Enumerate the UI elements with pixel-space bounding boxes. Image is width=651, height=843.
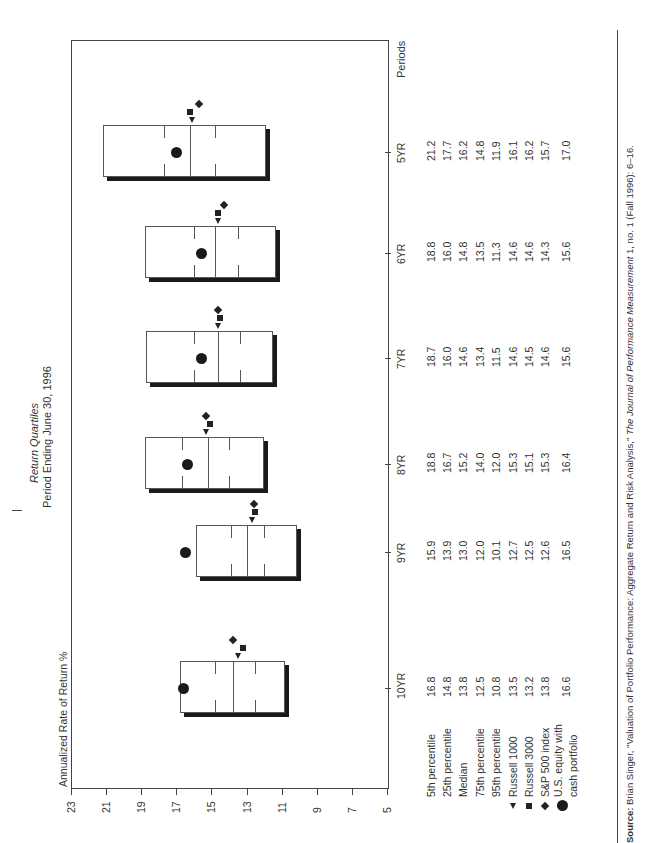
table-row-label: cash portfolio (567, 735, 579, 797)
table-cell: 15.7 (539, 141, 551, 161)
y-tick-label: 7 (346, 807, 358, 813)
source-rule (617, 30, 618, 843)
box-shadow (149, 489, 268, 493)
russell-1000-marker (203, 429, 209, 435)
x-tick-label: 6YR (395, 244, 407, 264)
source-prefix: Source: (624, 808, 635, 843)
russell-1000-marker (189, 117, 195, 123)
y-tick (141, 789, 142, 795)
table-cell: 14.5 (523, 347, 535, 367)
table-row-label: Russell 3000 (523, 736, 535, 797)
russell-3000-marker (187, 109, 193, 115)
y-tick-label: 5 (381, 807, 393, 813)
quartile-tick (194, 265, 195, 278)
table-cell: 13.8 (457, 677, 469, 697)
table-cell: 13.5 (507, 677, 519, 697)
quartile-tick (182, 437, 183, 450)
y-tick-label: 9 (311, 807, 323, 813)
table-cell: 14.3 (539, 242, 551, 262)
table-row-label: Median (457, 763, 469, 797)
legend-circle-icon (557, 800, 568, 811)
table-cell: 16.0 (441, 347, 453, 367)
box-shadow (184, 713, 289, 717)
table-cell: 12.0 (490, 453, 502, 473)
quartile-tick (164, 164, 165, 177)
y-tick-label: 19 (135, 801, 147, 813)
median-line (208, 437, 209, 489)
table-row-label: 75th percentile (474, 728, 486, 797)
table-cell: 11.3 (490, 242, 502, 262)
quartile-tick (194, 370, 195, 383)
quartile-box (146, 331, 272, 383)
table-cell: 12.7 (507, 541, 519, 561)
box-shadow (285, 665, 289, 717)
table-cell: 16.7 (441, 453, 453, 473)
russell-1000-marker (235, 653, 241, 659)
x-tick (385, 358, 391, 359)
table-row-label: 95th percentile (490, 728, 502, 797)
table-cell: 10.8 (490, 677, 502, 697)
x-tick (385, 552, 391, 553)
table-cell: 11.5 (490, 347, 502, 367)
table-cell: 15.2 (457, 453, 469, 473)
y-tick-label: 17 (170, 801, 182, 813)
box-shadow (266, 129, 270, 181)
table-cell: 14.6 (523, 242, 535, 262)
table-row-label: Russell 1000 (507, 736, 519, 797)
quartile-tick (194, 331, 195, 344)
table-row-label: 5th percentile (425, 734, 437, 797)
table-cell: 11.9 (490, 141, 502, 161)
table-cell: 17.0 (560, 141, 572, 161)
table-cell: 12.5 (523, 541, 535, 561)
x-tick-label: 5YR (395, 143, 407, 163)
table-cell: 13.0 (457, 541, 469, 561)
table-row-label: 25th percentile (441, 728, 453, 797)
table-cell: 15.9 (425, 541, 437, 561)
us-equity-marker (196, 248, 207, 259)
y-tick (211, 789, 212, 795)
x-tick (385, 464, 391, 465)
quartile-tick (182, 476, 183, 489)
table-cell: 14.6 (507, 347, 519, 367)
legend-triangle-icon (510, 803, 516, 809)
x-tick-label: 7YR (395, 349, 407, 369)
y-tick (387, 789, 388, 795)
table-cell: 16.4 (560, 453, 572, 473)
table-cell: 13.9 (441, 541, 453, 561)
page-left-rule (12, 510, 22, 511)
box-shadow (200, 577, 302, 581)
x-tick (385, 253, 391, 254)
table-cell: 18.8 (425, 453, 437, 473)
quartile-tick (164, 125, 165, 138)
table-cell: 13.2 (523, 677, 535, 697)
x-axis-label: Periods (395, 41, 407, 78)
quartile-tick (255, 661, 256, 674)
quartile-box (103, 125, 266, 177)
y-tick-label: 23 (65, 801, 77, 813)
table-cell: 15.3 (539, 453, 551, 473)
source-citation: Source: Brian Singer, "Valuation of Port… (624, 145, 635, 843)
legend-diamond-icon (541, 802, 549, 810)
table-cell: 13.8 (539, 677, 551, 697)
russell-1000-marker (249, 517, 255, 523)
x-tick-label: 9YR (395, 543, 407, 563)
table-cell: 16.5 (560, 541, 572, 561)
y-tick (352, 789, 353, 795)
box-shadow (264, 441, 268, 493)
table-cell: 16.0 (441, 242, 453, 262)
table-cell: 18.8 (425, 242, 437, 262)
x-tick (385, 152, 391, 153)
russell-3000-marker (252, 509, 258, 515)
chart-subtitle: Period Ending June 30, 1996 (41, 366, 53, 508)
y-axis-label: Annualized Rate of Return % (57, 652, 69, 787)
x-tick (385, 688, 391, 689)
table-cell: 15.3 (507, 453, 519, 473)
table-cell: 14.6 (457, 347, 469, 367)
us-equity-marker (182, 459, 193, 470)
russell-3000-marker (217, 315, 223, 321)
box-shadow (107, 177, 270, 181)
quartile-tick (231, 564, 232, 577)
y-tick (71, 789, 72, 795)
table-cell: 14.0 (474, 453, 486, 473)
y-tick (317, 789, 318, 795)
